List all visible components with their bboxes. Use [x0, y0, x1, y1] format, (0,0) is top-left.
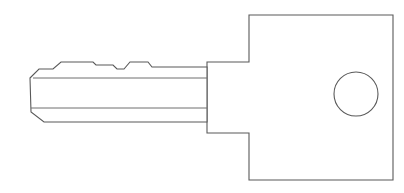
key-drawing	[0, 0, 404, 193]
drawing-canvas	[0, 0, 404, 193]
key-bow-hole	[334, 72, 378, 116]
key-blade	[30, 62, 207, 122]
